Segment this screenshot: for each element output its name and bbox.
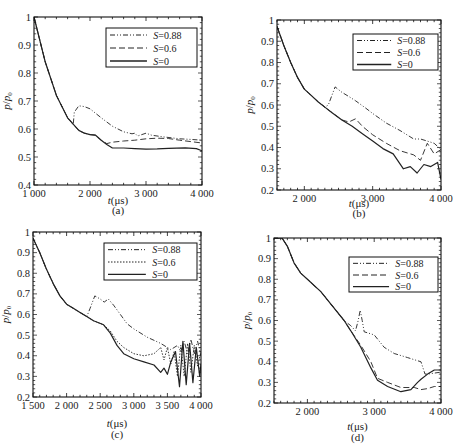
x-tick-label: 3 500	[156, 400, 180, 411]
x-tick-label: 3 000	[134, 188, 158, 199]
y-tick-label: 0.5	[261, 121, 274, 132]
y-tick-label: 0.7	[18, 96, 31, 107]
y-tick-label: 0.5	[258, 336, 271, 347]
x-tick-label: 3 000	[362, 406, 386, 417]
legend-label: S=0.88	[395, 258, 423, 269]
y-tick-label: 0.4	[17, 350, 31, 361]
x-tick-label: 2 000	[293, 193, 317, 204]
chart-panel-a: 1 0002 0003 0004 0000.40.50.60.70.80.91t…	[0, 12, 214, 218]
chart-panel-c: 1 5002 0002 5003 0003 5004 0000.20.30.40…	[0, 227, 213, 442]
y-axis-label: p/p0	[243, 96, 257, 115]
y-tick-label: 0.8	[258, 274, 271, 285]
x-tick-label: 4 000	[190, 188, 214, 199]
y-tick-label: 0.3	[261, 163, 274, 174]
panel-caption: (b)	[353, 207, 366, 220]
legend: S=0.88S=0.6S=0	[106, 28, 197, 67]
y-tick-label: 0.2	[261, 185, 274, 196]
legend: S=0.88S=0.6S=0	[349, 257, 438, 292]
y-tick-label: 0.5	[17, 330, 30, 341]
y-tick-label: 0.2	[17, 392, 30, 403]
x-tick-label: 4 000	[429, 406, 453, 417]
panel-caption: (c)	[111, 428, 124, 441]
legend-label: S=0	[152, 269, 168, 280]
y-tick-label: 0.3	[258, 377, 271, 388]
x-tick-label: 4 000	[429, 193, 453, 204]
y-axis-label: p/p0	[240, 311, 254, 330]
y-tick-label: 0.4	[258, 356, 272, 367]
y-tick-label: 0.2	[258, 398, 271, 409]
legend-label: S=0.6	[397, 47, 420, 58]
y-axis-label: p/p0	[0, 92, 14, 111]
legend: S=0.88S=0.6S=0	[104, 243, 197, 280]
legend-label: S=0.88	[397, 35, 425, 46]
y-tick-label: 0.9	[261, 36, 274, 47]
legend-label: S=0.88	[152, 244, 180, 255]
legend-label: S=0.6	[152, 257, 175, 268]
y-tick-label: 0.9	[17, 247, 30, 258]
legend: S=0.88S=0.6S=0	[353, 34, 438, 70]
y-tick-label: 0.6	[18, 124, 31, 135]
panel-caption: (d)	[351, 431, 364, 444]
legend-label: S=0.6	[395, 270, 418, 281]
figure-canvas: 1 0002 0003 0004 0000.40.50.60.70.80.91t…	[0, 0, 456, 448]
x-tick-label: 2 500	[88, 400, 112, 411]
x-tick-label: 2 000	[55, 400, 79, 411]
y-tick-label: 0.3	[17, 371, 30, 382]
y-tick-label: 1	[26, 12, 31, 23]
y-tick-label: 1	[25, 227, 30, 238]
chart-panel-b: 2 0003 0004 0000.20.30.40.50.60.70.80.91…	[243, 15, 453, 221]
y-tick-label: 0.7	[261, 78, 274, 89]
x-tick-label: 2 000	[296, 406, 320, 417]
y-tick-label: 0.7	[17, 288, 30, 299]
x-tick-label: 2 000	[78, 188, 102, 199]
y-tick-label: 0.5	[18, 152, 31, 163]
y-tick-label: 0.9	[18, 40, 31, 51]
y-tick-label: 0.7	[258, 294, 271, 305]
y-tick-label: 1	[266, 233, 271, 244]
panel-caption: (a)	[112, 204, 125, 217]
legend-label: S=0	[395, 281, 411, 292]
y-tick-label: 0.8	[261, 57, 274, 68]
y-tick-label: 1	[269, 15, 274, 26]
chart-panel-d: 2 0003 0004 0000.20.30.40.50.60.70.80.91…	[240, 233, 453, 445]
y-tick-label: 0.8	[17, 268, 30, 279]
y-tick-label: 0.4	[261, 142, 275, 153]
y-tick-label: 0.6	[261, 100, 274, 111]
legend-label: S=0	[153, 56, 169, 67]
y-tick-label: 0.6	[17, 309, 30, 320]
legend-label: S=0.88	[153, 30, 181, 41]
x-tick-label: 4 000	[189, 400, 213, 411]
legend-label: S=0	[397, 59, 413, 70]
y-tick-label: 0.4	[18, 180, 32, 191]
x-tick-label: 3 000	[122, 400, 146, 411]
legend-label: S=0.6	[153, 43, 176, 54]
y-tick-label: 0.8	[18, 68, 31, 79]
y-tick-label: 0.9	[258, 253, 271, 264]
y-axis-label: p/p0	[0, 305, 13, 324]
y-tick-label: 0.6	[258, 315, 271, 326]
